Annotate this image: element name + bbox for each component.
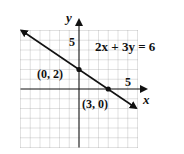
equation-label: 2x + 3y = 6 xyxy=(95,39,156,54)
point-label-3-0: (3, 0) xyxy=(82,97,108,111)
y-tick-label: 5 xyxy=(69,35,75,49)
x-axis-label: x xyxy=(142,92,150,107)
graph: y x 5 5 2x + 3y = 6 (0, 2) (3, 0) xyxy=(0,0,184,154)
point-0-2 xyxy=(76,67,81,72)
point-label-0-2: (0, 2) xyxy=(37,67,63,81)
y-axis-label: y xyxy=(64,10,72,25)
point-3-0 xyxy=(106,86,111,91)
x-tick-label: 5 xyxy=(125,75,131,89)
